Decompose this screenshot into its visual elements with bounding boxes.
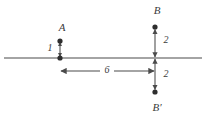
measure-label-b-to-line: 2 (164, 34, 169, 45)
point-b-prime-label: B′ (152, 101, 162, 113)
point-b-prime-dot (152, 89, 157, 94)
geometry-figure-canvas: A B B′ 1 2 2 6 (0, 0, 207, 120)
point-a-label: A (58, 21, 66, 33)
measure-label-a-to-line: 1 (48, 42, 53, 53)
measure-label-line-to-b-prime: 2 (164, 68, 169, 79)
geometry-figure-svg: A B B′ 1 2 2 6 (0, 0, 207, 120)
point-a-dot (57, 38, 62, 43)
point-b-dot (152, 24, 157, 29)
measure-label-horizontal-span: 6 (105, 64, 110, 75)
point-b-label: B (154, 4, 161, 16)
foot-of-a-dot (57, 55, 62, 60)
